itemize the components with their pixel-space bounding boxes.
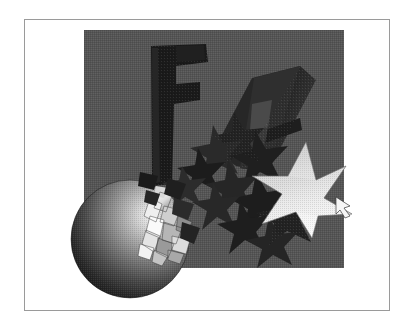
image-canvas: [0, 0, 406, 333]
artwork-svg: [0, 0, 406, 333]
